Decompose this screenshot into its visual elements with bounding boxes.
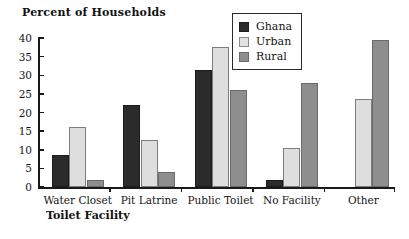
y-axis-tick-label: 25 — [19, 88, 32, 100]
legend-swatch-urban-icon — [239, 37, 249, 47]
bar-urban-no-facility — [283, 148, 300, 187]
legend-item-ghana: Ghana — [239, 19, 292, 34]
x-axis-label-other: Other — [348, 194, 379, 206]
legend-label-ghana: Ghana — [256, 20, 292, 33]
bar-rural-water-closet — [87, 180, 104, 187]
bar-urban-public-toilet — [212, 47, 229, 187]
y-axis-tick-label: 15 — [19, 125, 32, 137]
x-axis-tick — [109, 187, 111, 192]
chart-legend: Ghana Urban Rural — [232, 13, 302, 70]
x-axis-tick — [252, 187, 254, 192]
x-axis-tick — [181, 187, 183, 192]
bar-urban-water-closet — [69, 127, 86, 187]
y-axis-tick — [38, 130, 44, 132]
bar-rural-other — [372, 40, 389, 187]
bar-rural-pit-latrine — [158, 172, 175, 187]
legend-item-urban: Urban — [239, 34, 292, 49]
bar-ghana-pit-latrine — [123, 105, 140, 187]
y-axis-tick — [38, 93, 44, 95]
bar-ghana-no-facility — [266, 180, 283, 187]
bar-group — [337, 38, 389, 187]
y-axis-tick-labels: 0510152025303540 — [0, 38, 32, 187]
x-axis-tick — [324, 187, 326, 192]
y-axis-tick-label: 10 — [19, 144, 32, 156]
plot-area — [38, 38, 395, 187]
x-axis-label-public-toilet: Public Toilet — [187, 194, 253, 206]
bar-group — [123, 38, 175, 187]
y-axis-tick — [38, 37, 44, 39]
legend-swatch-rural-icon — [239, 52, 249, 62]
y-axis-tick-label: 0 — [25, 181, 32, 193]
x-axis-label-no-facility: No Facility — [263, 194, 321, 206]
y-axis-tick-label: 30 — [19, 69, 32, 81]
bar-urban-other — [355, 99, 372, 187]
y-axis-tick — [38, 149, 44, 151]
bar-rural-no-facility — [301, 83, 318, 187]
y-axis-tick-label: 40 — [19, 32, 32, 44]
x-axis-end-tick — [394, 187, 396, 192]
legend-label-rural: Rural — [256, 50, 287, 63]
x-axis-label-pit-latrine: Pit Latrine — [121, 194, 178, 206]
legend-label-urban: Urban — [256, 35, 291, 48]
y-axis-tick-label: 20 — [19, 107, 32, 119]
y-axis-tick-label: 35 — [19, 51, 32, 63]
bar-ghana-public-toilet — [195, 70, 212, 187]
y-axis-tick — [38, 56, 44, 58]
bar-rural-public-toilet — [230, 90, 247, 187]
y-axis-tick — [38, 112, 44, 114]
x-axis-label-water-closet: Water Closet — [43, 194, 111, 206]
bar-chart: Percent of Households 0510152025303540 W… — [0, 0, 409, 239]
y-axis-tick — [38, 75, 44, 77]
y-axis-title: Percent of Households — [22, 6, 166, 19]
y-axis-tick-label: 5 — [25, 162, 32, 174]
bar-ghana-water-closet — [52, 155, 69, 187]
y-axis-tick — [38, 168, 44, 170]
x-axis-line — [38, 187, 395, 189]
legend-item-rural: Rural — [239, 49, 292, 64]
y-axis-tick — [38, 186, 44, 188]
x-axis-title: Toilet Facility — [46, 209, 130, 222]
bar-group — [52, 38, 104, 187]
legend-swatch-ghana-icon — [239, 22, 249, 32]
bar-urban-pit-latrine — [141, 140, 158, 187]
